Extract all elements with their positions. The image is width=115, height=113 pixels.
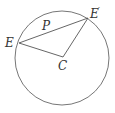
label-e: E	[4, 36, 14, 50]
radius-ceprime	[63, 18, 88, 57]
label-e-prime-mark: ′	[98, 5, 100, 14]
label-p: P	[41, 19, 51, 33]
label-c: C	[58, 59, 67, 73]
radius-ce	[19, 43, 63, 57]
chord-e-eprime	[19, 18, 88, 43]
geometry-diagram: E E ′ P C	[0, 0, 115, 113]
circle	[15, 11, 109, 105]
